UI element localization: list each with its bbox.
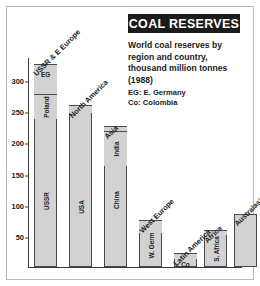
- segment-label-india: India: [112, 142, 119, 157]
- y-axis: [28, 58, 29, 268]
- bar-asia[interactable]: China India: [104, 127, 127, 267]
- bar-ussr-e-europe[interactable]: USSR Poland EG: [34, 65, 57, 267]
- y-tick-50: 50: [6, 233, 24, 242]
- y-tick-100: 100: [6, 202, 24, 211]
- y-tick-300: 300: [6, 77, 24, 86]
- y-tick-250: 250: [6, 108, 24, 117]
- y-tick-200: 200: [6, 139, 24, 148]
- x-axis: [28, 267, 242, 268]
- segment-label-china: China: [112, 191, 119, 209]
- segment-label-usa: USA: [77, 200, 84, 214]
- segment-poland: Poland: [34, 94, 57, 119]
- segment-label-ussr: USSR: [42, 192, 49, 210]
- y-tick-150: 150: [6, 171, 24, 180]
- segment-label-poland: Poland: [42, 96, 49, 117]
- chart-page: COAL RESERVES World coal reserves by reg…: [0, 0, 260, 286]
- bar-north-america[interactable]: USA: [69, 106, 92, 267]
- plot-area: 300 250 200 150 100 50 USSR Poland EG US…: [28, 14, 242, 268]
